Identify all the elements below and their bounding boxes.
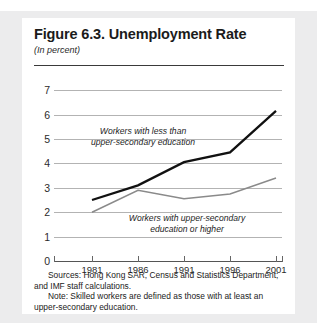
figure-title: Figure 6.3. Unemployment Rate	[34, 26, 286, 43]
series-line-high-education	[92, 178, 276, 212]
figure-page: Figure 6.3. Unemployment Rate (In percen…	[0, 0, 317, 333]
running-head	[0, 0, 317, 11]
title-divider	[34, 65, 284, 66]
annotation-high-education: Workers with upper-secondary education o…	[116, 213, 258, 234]
x-axis-line	[54, 261, 282, 262]
annotation-high-education-line1: Workers with upper-secondary	[129, 213, 245, 223]
series-line-low-education	[92, 111, 276, 200]
figure-title-block: Figure 6.3. Unemployment Rate (In percen…	[34, 26, 286, 56]
figure-subtitle: (In percent)	[34, 44, 286, 56]
figure-card: Figure 6.3. Unemployment Rate (In percen…	[22, 18, 295, 314]
annotation-low-education-line2: upper-secondary education	[91, 137, 195, 147]
chart-plot-area: 7 6 5 4 3 2 1 0 Workers with less than u…	[34, 74, 286, 269]
figure-sources: Sources: Hong Kong SAR, Census and Stati…	[34, 270, 286, 291]
figure-note: Note: Skilled workers are defined as tho…	[34, 291, 286, 312]
annotation-low-education: Workers with less than upper-secondary e…	[78, 126, 208, 147]
annotation-high-education-line2: education or higher	[150, 224, 224, 234]
figure-notes: Sources: Hong Kong SAR, Census and Stati…	[34, 270, 286, 312]
annotation-low-education-line1: Workers with less than	[100, 126, 186, 136]
chart-series-lines	[34, 74, 286, 269]
